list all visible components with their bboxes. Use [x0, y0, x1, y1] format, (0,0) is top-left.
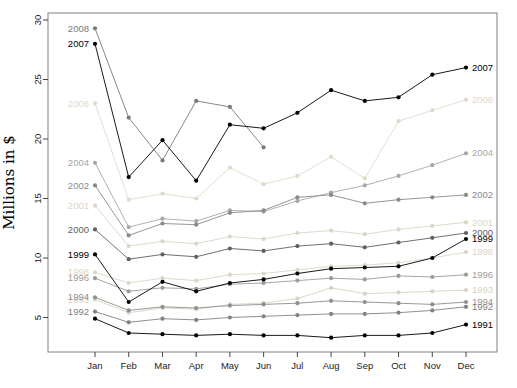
- data-point: [228, 235, 232, 239]
- series-label-end: 1991: [472, 319, 493, 330]
- data-point: [430, 73, 434, 77]
- series-label-end: 2007: [472, 62, 493, 73]
- series-label-start: 2004: [68, 157, 89, 168]
- x-tick-label: Sep: [356, 360, 373, 371]
- data-point: [396, 119, 400, 123]
- series-line: [95, 288, 466, 313]
- series-line: [95, 206, 466, 247]
- data-point: [194, 318, 198, 322]
- data-point: [228, 273, 232, 277]
- data-point: [295, 279, 299, 283]
- series-2001: 20012001: [68, 200, 493, 248]
- y-axis: 51015202530: [32, 15, 48, 320]
- data-point: [160, 217, 164, 221]
- data-point: [430, 236, 434, 240]
- series-line: [95, 153, 466, 227]
- series-label-end: 2002: [472, 189, 493, 200]
- series-label-start: 2008: [68, 23, 89, 34]
- series-label-end: 2001: [472, 217, 493, 228]
- data-point: [363, 265, 367, 269]
- data-point: [329, 286, 333, 290]
- data-point: [396, 174, 400, 178]
- series-line: [95, 319, 466, 338]
- data-point: [295, 244, 299, 248]
- data-point: [464, 231, 468, 235]
- series-label-start: 2001: [68, 200, 89, 211]
- data-point: [127, 257, 131, 261]
- line-chart: 51015202530JanFebMarAprMayJunJulAugSepOc…: [0, 0, 517, 388]
- series-label-end: 2004: [472, 147, 493, 158]
- data-point: [262, 249, 266, 253]
- x-tick-label: May: [221, 360, 239, 371]
- data-point: [228, 281, 232, 285]
- data-point: [228, 332, 232, 336]
- series-label-start: 2007: [68, 38, 89, 49]
- data-point: [430, 308, 434, 312]
- data-point: [262, 237, 266, 241]
- data-point: [295, 199, 299, 203]
- data-point: [363, 201, 367, 205]
- data-point: [160, 332, 164, 336]
- series-1994: 19941994: [68, 291, 493, 312]
- data-point: [127, 289, 131, 293]
- data-point: [160, 276, 164, 280]
- series-label-start: 1992: [68, 306, 89, 317]
- series-label-end: 1998: [472, 246, 493, 257]
- series-line: [95, 28, 264, 160]
- data-point: [329, 155, 333, 159]
- data-point: [127, 244, 131, 248]
- data-point: [464, 220, 468, 224]
- data-point: [194, 99, 198, 103]
- data-point: [93, 183, 97, 187]
- data-point: [430, 289, 434, 293]
- data-point: [295, 268, 299, 272]
- series-line: [95, 307, 466, 323]
- x-tick-label: Aug: [323, 360, 340, 371]
- data-point: [329, 88, 333, 92]
- data-point: [329, 193, 333, 197]
- data-point: [262, 277, 266, 281]
- data-point: [228, 105, 232, 109]
- data-point: [464, 98, 468, 102]
- data-point: [160, 252, 164, 256]
- data-point: [464, 151, 468, 155]
- data-point: [160, 138, 164, 142]
- data-point: [363, 176, 367, 180]
- data-point: [329, 276, 333, 280]
- x-tick-label: Nov: [424, 360, 441, 371]
- data-point: [363, 300, 367, 304]
- data-point: [329, 267, 333, 271]
- data-point: [464, 288, 468, 292]
- data-point: [228, 315, 232, 319]
- data-point: [160, 286, 164, 290]
- data-point: [329, 336, 333, 340]
- series-label-start: 1999: [68, 249, 89, 260]
- y-tick-label: 5: [32, 315, 43, 320]
- series-1998: 19981998: [68, 246, 493, 285]
- series-line: [95, 100, 466, 200]
- data-point: [262, 126, 266, 130]
- data-point: [262, 145, 266, 149]
- series-2006: 20062006: [68, 94, 493, 202]
- data-point: [396, 227, 400, 231]
- data-point: [93, 42, 97, 46]
- data-point: [363, 245, 367, 249]
- data-point: [363, 99, 367, 103]
- y-tick-label: 20: [32, 134, 43, 145]
- data-point: [262, 302, 266, 306]
- series-label-start: 1996: [68, 272, 89, 283]
- data-point: [160, 221, 164, 225]
- data-point: [430, 195, 434, 199]
- data-point: [363, 232, 367, 236]
- data-point: [295, 333, 299, 337]
- data-point: [396, 95, 400, 99]
- y-tick-label: 10: [32, 253, 43, 264]
- x-tick-label: Dec: [458, 360, 475, 371]
- data-point: [262, 271, 266, 275]
- data-point: [295, 313, 299, 317]
- data-point: [295, 174, 299, 178]
- data-point: [430, 302, 434, 306]
- series-label-start: 1994: [68, 291, 89, 302]
- data-point: [160, 305, 164, 309]
- data-point: [93, 227, 97, 231]
